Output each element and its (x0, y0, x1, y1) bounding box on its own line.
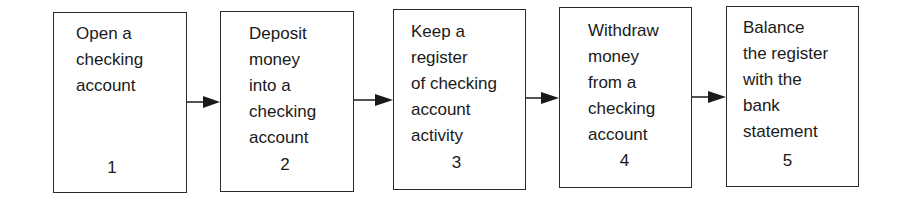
arrow-4-to-5 (692, 91, 726, 103)
arrow-3-to-4 (526, 92, 559, 104)
arrowhead-icon (203, 96, 220, 108)
arrow-2-to-3 (354, 94, 393, 106)
arrow-1-to-2 (187, 96, 220, 108)
arrowhead-icon (541, 92, 559, 104)
connector-arrows (0, 0, 905, 204)
arrowhead-icon (375, 94, 393, 106)
arrowhead-icon (708, 91, 726, 103)
